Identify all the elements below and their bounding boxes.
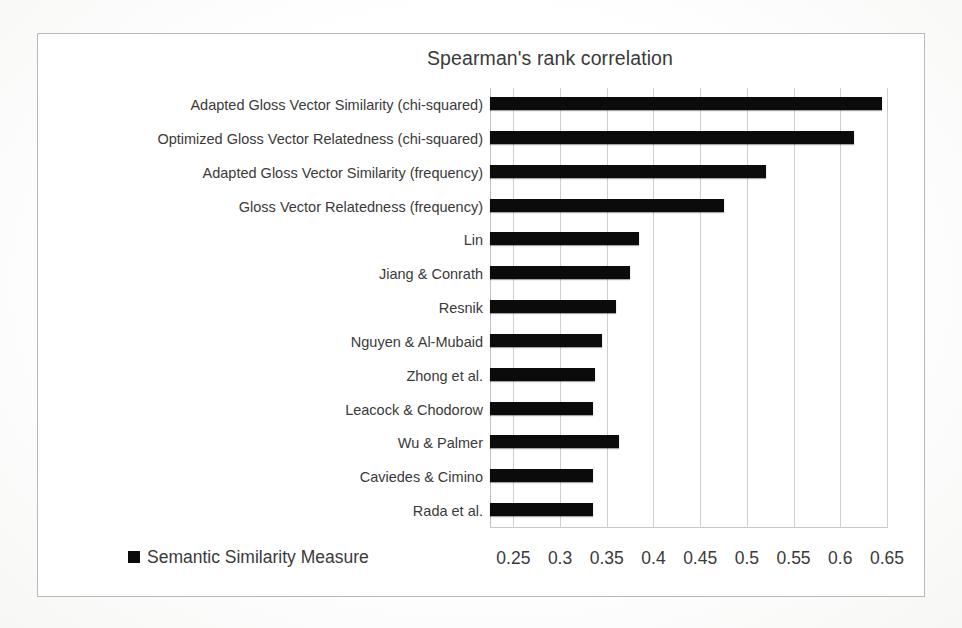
- category-axis-labels: Adapted Gloss Vector Similarity (chi-squ…: [10, 88, 483, 528]
- bar-row[interactable]: [490, 223, 887, 257]
- bar[interactable]: [490, 368, 595, 381]
- bar-row[interactable]: [490, 460, 887, 494]
- category-label: Zhong et al.: [13, 368, 483, 384]
- bar-row[interactable]: [490, 426, 887, 460]
- category-label: Jiang & Conrath: [13, 266, 483, 282]
- category-label: Gloss Vector Relatedness (frequency): [13, 199, 483, 215]
- value-axis-tick: 0.35: [590, 545, 624, 571]
- legend-swatch-icon: [128, 551, 140, 563]
- legend-label: Semantic Similarity Measure: [147, 544, 369, 570]
- bar[interactable]: [490, 165, 766, 178]
- bar[interactable]: [490, 97, 882, 110]
- chart-page: Spearman's rank correlation Adapted Glos…: [0, 0, 962, 628]
- bar[interactable]: [490, 469, 593, 482]
- bar-row[interactable]: [490, 88, 887, 122]
- bar-row[interactable]: [490, 393, 887, 427]
- bar[interactable]: [490, 131, 854, 144]
- value-axis-tick-labels: 0.250.30.350.40.450.50.550.60.65: [490, 545, 887, 575]
- category-label: Caviedes & Cimino: [13, 469, 483, 485]
- bar-row[interactable]: [490, 359, 887, 393]
- bar-row[interactable]: [490, 494, 887, 528]
- value-axis-tick: 0.4: [641, 545, 665, 571]
- value-axis-tick: 0.45: [683, 545, 717, 571]
- value-axis-tick: 0.6: [828, 545, 852, 571]
- value-axis-tick: 0.55: [777, 545, 811, 571]
- category-label: Rada et al.: [13, 503, 483, 519]
- plot-area: [490, 88, 887, 528]
- bar-row[interactable]: [490, 291, 887, 325]
- category-label: Optimized Gloss Vector Relatedness (chi-…: [13, 131, 483, 147]
- bar-row[interactable]: [490, 122, 887, 156]
- bar-row[interactable]: [490, 156, 887, 190]
- category-label: Adapted Gloss Vector Similarity (frequen…: [13, 165, 483, 181]
- bar[interactable]: [490, 300, 616, 313]
- bar-row[interactable]: [490, 257, 887, 291]
- bar[interactable]: [490, 503, 593, 516]
- category-label: Adapted Gloss Vector Similarity (chi-squ…: [13, 97, 483, 113]
- bar[interactable]: [490, 266, 630, 279]
- bar[interactable]: [490, 199, 724, 212]
- category-label: Nguyen & Al-Mubaid: [13, 334, 483, 350]
- category-label: Resnik: [13, 300, 483, 316]
- bar-row[interactable]: [490, 190, 887, 224]
- bar[interactable]: [490, 402, 593, 415]
- category-label: Wu & Palmer: [13, 435, 483, 451]
- bar[interactable]: [490, 435, 619, 448]
- bar[interactable]: [490, 232, 639, 245]
- chart-title: Spearman's rank correlation: [360, 44, 740, 72]
- chart-legend: Semantic Similarity Measure: [128, 543, 369, 571]
- value-axis-tick: 0.3: [548, 545, 572, 571]
- bar-row[interactable]: [490, 325, 887, 359]
- value-axis-tick: 0.5: [735, 545, 759, 571]
- gridline: [887, 88, 888, 528]
- value-axis-tick: 0.65: [870, 545, 904, 571]
- category-label: Leacock & Chodorow: [13, 402, 483, 418]
- value-axis-tick: 0.25: [496, 545, 530, 571]
- category-label: Lin: [13, 232, 483, 248]
- bar[interactable]: [490, 334, 602, 347]
